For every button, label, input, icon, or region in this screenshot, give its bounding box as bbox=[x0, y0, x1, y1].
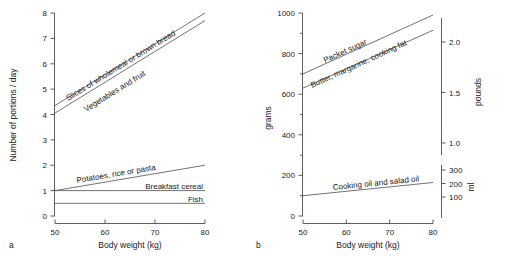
panel-a-xtick-70: 70 bbox=[151, 228, 160, 237]
panel-a-ytick-2: 2 bbox=[43, 161, 48, 170]
panel-b-x-axis-title: Body weight (kg) bbox=[336, 240, 399, 250]
series-label-fish: Fish bbox=[188, 195, 203, 204]
panel-b-ytick-600: 600 bbox=[282, 90, 296, 99]
two-panel-line-chart: 8 7 6 5 4 3 2 1 0 50 60 70 80 Number of … bbox=[0, 0, 520, 260]
panel-a-xtick-50: 50 bbox=[51, 228, 60, 237]
panel-a-ytick-1: 1 bbox=[43, 187, 48, 196]
panel-b-y-axis-title: grams bbox=[263, 106, 273, 130]
figure-root: 8 7 6 5 4 3 2 1 0 50 60 70 80 Number of … bbox=[0, 0, 520, 260]
panel-a-xtick-80: 80 bbox=[201, 228, 210, 237]
panel-a-y-axis-title: Number of portions / day bbox=[8, 68, 18, 162]
panel-a-letter: a bbox=[9, 240, 14, 250]
panel-b-letter: b bbox=[256, 240, 261, 250]
pounds-tick-2-0: 2.0 bbox=[449, 38, 461, 47]
panel-b-ytick-1000: 1000 bbox=[277, 9, 295, 18]
pounds-axis-title: pounds bbox=[473, 78, 483, 106]
ml-axis-title: ml bbox=[466, 182, 476, 191]
panel-a-ytick-5: 5 bbox=[43, 85, 48, 94]
panel-a-ytick-6: 6 bbox=[43, 60, 48, 69]
panel-b-xtick-60: 60 bbox=[342, 228, 351, 237]
panel-b-ytick-400: 400 bbox=[282, 131, 296, 140]
panel-a-xtick-60: 60 bbox=[101, 228, 110, 237]
pounds-tick-1-5: 1.5 bbox=[449, 89, 461, 98]
panel-b-xtick-80: 80 bbox=[429, 228, 438, 237]
pounds-tick-1-0: 1.0 bbox=[449, 139, 461, 148]
ml-tick-300: 300 bbox=[449, 166, 463, 175]
panel-a-ytick-8: 8 bbox=[43, 9, 48, 18]
ml-tick-200: 200 bbox=[449, 180, 463, 189]
panel-a-ytick-7: 7 bbox=[43, 34, 48, 43]
ml-tick-100: 100 bbox=[449, 193, 463, 202]
series-label-breakfast-cereal: Breakfast cereal bbox=[145, 182, 203, 191]
panel-b-ytick-0: 0 bbox=[291, 212, 296, 221]
panel-b-ytick-200: 200 bbox=[282, 171, 296, 180]
panel-b-ytick-800: 800 bbox=[282, 50, 296, 59]
panel-b-xtick-70: 70 bbox=[385, 228, 394, 237]
panel-a-ytick-4: 4 bbox=[43, 111, 48, 120]
panel-b-xtick-50: 50 bbox=[299, 228, 308, 237]
figure-background bbox=[0, 0, 520, 260]
panel-a-ytick-3: 3 bbox=[43, 136, 48, 145]
panel-a-ytick-0: 0 bbox=[43, 212, 48, 221]
panel-a-x-axis-title: Body weight (kg) bbox=[98, 240, 161, 250]
